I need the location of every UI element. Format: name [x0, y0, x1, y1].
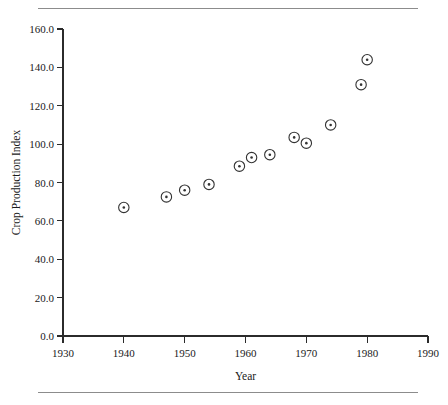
data-point-marker — [362, 55, 372, 65]
data-point-marker — [301, 138, 311, 148]
y-tick-label: 120.0 — [29, 100, 54, 112]
y-tick-label: 160.0 — [29, 23, 54, 35]
data-points — [119, 55, 373, 213]
axis-lines — [63, 29, 428, 336]
x-tick-label: 1970 — [295, 347, 318, 359]
x-tick-label: 1950 — [174, 347, 197, 359]
x-tick-label: 1960 — [235, 347, 258, 359]
data-point-marker — [246, 152, 256, 162]
y-tick-label: 0.0 — [40, 330, 54, 342]
x-axis-title: Year — [235, 370, 256, 382]
y-tick-label: 100.0 — [29, 138, 54, 150]
x-tick-label: 1930 — [52, 347, 75, 359]
y-axis-title: Crop Production Index — [10, 130, 23, 236]
y-axis-ticks: 0.020.040.060.080.0100.0120.0140.0160.0 — [29, 23, 63, 342]
data-point-marker — [119, 202, 129, 212]
data-point-marker — [179, 185, 189, 195]
x-axis-ticks: 1930194019501960197019801990 — [52, 336, 440, 359]
data-point-marker — [234, 161, 244, 171]
data-point-marker — [356, 79, 366, 89]
data-point-marker — [161, 192, 171, 202]
data-point-marker — [289, 132, 299, 142]
y-tick-label: 80.0 — [35, 177, 55, 189]
y-tick-label: 40.0 — [35, 253, 55, 265]
y-tick-label: 60.0 — [35, 215, 55, 227]
x-tick-label: 1940 — [113, 347, 136, 359]
figure-container: 0.020.040.060.080.0100.0120.0140.0160.0 … — [0, 0, 448, 405]
x-tick-label: 1990 — [417, 347, 440, 359]
x-tick-label: 1980 — [356, 347, 379, 359]
scatter-chart: 0.020.040.060.080.0100.0120.0140.0160.0 … — [0, 0, 448, 405]
data-point-marker — [325, 120, 335, 130]
data-point-marker — [204, 179, 214, 189]
data-point-marker — [265, 149, 275, 159]
y-tick-label: 20.0 — [35, 292, 55, 304]
y-tick-label: 140.0 — [29, 61, 54, 73]
